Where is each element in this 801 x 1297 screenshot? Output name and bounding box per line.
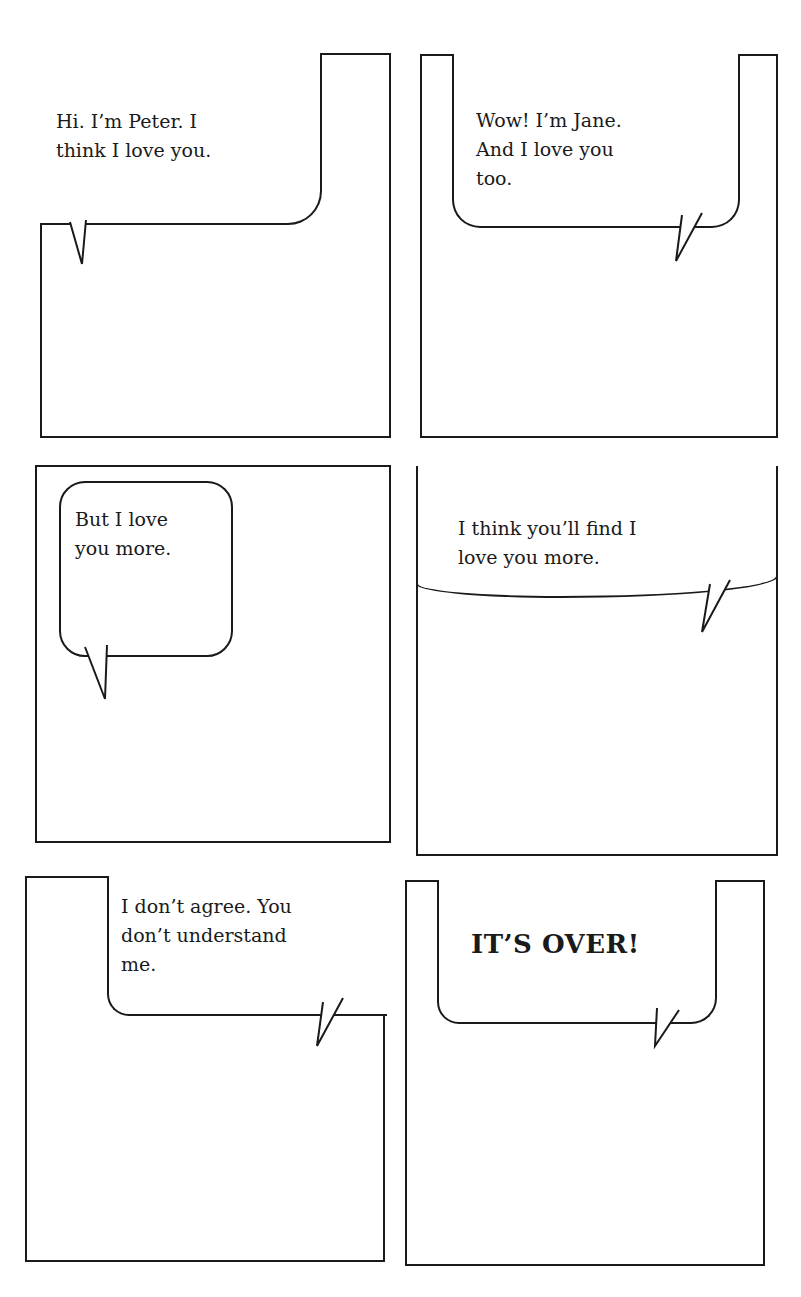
speech-tail-icon-2: [674, 211, 714, 266]
speech-text-2: Wow! I’m Jane. And I love you too.: [476, 106, 622, 193]
speech-tail-icon-3: [81, 645, 121, 705]
speech-text-5: I don’t agree. You don’t understand me.: [121, 892, 292, 979]
speech-tail-icon-6: [653, 1006, 693, 1056]
speech-tail-icon-1: [68, 220, 98, 270]
comic-panel-6: IT’S OVER!: [405, 880, 765, 1266]
comic-panel-5: I don’t agree. You don’t understand me.: [25, 876, 385, 1262]
comic-panel-2: Wow! I’m Jane. And I love you too.: [420, 54, 778, 438]
speech-text-4: I think you’ll find I love you more.: [458, 514, 637, 572]
speech-text-1: Hi. I’m Peter. I think I love you.: [56, 107, 211, 165]
speech-text-6: IT’S OVER!: [471, 930, 640, 959]
speech-tail-icon-4: [700, 580, 740, 640]
comic-panel-3: But I love you more.: [35, 465, 391, 843]
speech-text-3: But I love you more.: [75, 505, 171, 563]
speech-tail-icon-5: [315, 998, 355, 1058]
comic-panel-4: I think you’ll find I love you more.: [416, 466, 778, 856]
comic-panel-1: Hi. I’m Peter. I think I love you.: [40, 53, 391, 438]
